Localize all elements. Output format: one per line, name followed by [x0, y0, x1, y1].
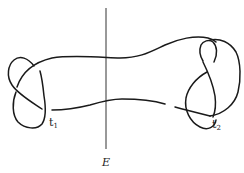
right-crossing-strand [175, 107, 210, 116]
label-e: E [101, 156, 110, 169]
right-inner-top [200, 41, 217, 62]
label-t1: t1 [49, 116, 58, 130]
top-strand [17, 37, 216, 87]
knot-diagram: E t1 t2 [0, 0, 244, 173]
bottom-strand [52, 99, 165, 110]
left-loop-lower [13, 71, 45, 128]
right-outer-loop [210, 40, 240, 117]
tangle-t1 [8, 37, 216, 128]
tangle-t2 [175, 40, 240, 129]
right-inner-descend [203, 62, 216, 117]
